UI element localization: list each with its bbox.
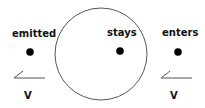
right-arrow-icon [161,71,192,78]
stays-particle-dot [116,47,124,55]
enters-particle-dot [174,48,182,56]
velocity-label-right: V [170,91,178,101]
stays-label: stays [107,28,137,38]
emitted-particle-dot [26,48,34,56]
particle-diagram: emitted stays enters V V [0,0,205,108]
emitted-label: emitted [12,29,56,39]
velocity-label-left: V [24,91,32,101]
region-circle [55,8,147,100]
enters-label: enters [162,28,198,38]
left-arrow-icon [14,71,45,78]
